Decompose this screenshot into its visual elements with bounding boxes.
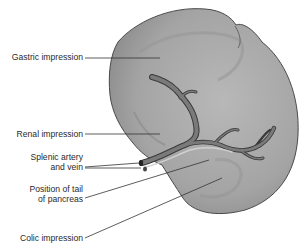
- leader-splenic-1: [85, 163, 139, 167]
- label-renal-impression: Renal impression: [6, 129, 83, 139]
- label-text: Splenic artery: [6, 152, 83, 162]
- label-text: of pancreas: [6, 194, 83, 204]
- spleen-diagram: [0, 0, 307, 249]
- label-gastric-impression: Gastric impression: [6, 52, 83, 62]
- label-colic-impression: Colic impression: [6, 233, 83, 243]
- label-text: Colic impression: [6, 233, 83, 243]
- label-text: Gastric impression: [6, 52, 83, 62]
- label-splenic-artery-vein: Splenic artery and vein: [6, 152, 83, 172]
- label-text: and vein: [6, 162, 83, 172]
- spleen-outline: [109, 9, 298, 214]
- label-text: Renal impression: [6, 129, 83, 139]
- label-text: Position of tail: [6, 184, 83, 194]
- label-tail-of-pancreas: Position of tail of pancreas: [6, 184, 83, 204]
